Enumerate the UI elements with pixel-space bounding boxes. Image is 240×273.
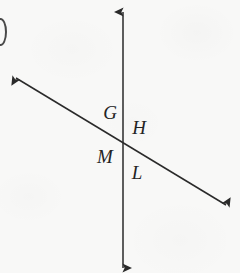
lines-diagram: [0, 0, 240, 273]
label-g: G: [103, 103, 117, 122]
diagonal-line: [16, 78, 226, 205]
label-h: H: [132, 118, 146, 137]
geometry-figure: G H M L: [0, 0, 240, 273]
label-m: M: [97, 147, 113, 166]
label-l: L: [132, 163, 143, 182]
